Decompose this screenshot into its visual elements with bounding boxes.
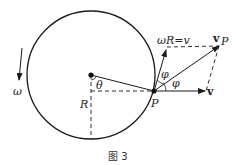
phi-upper-label: φ <box>161 68 169 81</box>
vp-label: v <box>212 32 220 45</box>
rolling-wheel-diagram: ω θ R P ωR=v v P v φ φ 图 3 <box>0 0 232 165</box>
omega-label: ω <box>13 85 22 98</box>
figure-caption: 图 3 <box>108 151 128 162</box>
phi-lower-label: φ <box>172 77 180 90</box>
point-p-label: P <box>150 97 159 110</box>
v-label: v <box>206 85 214 98</box>
omega-rotation-arrow <box>19 48 22 80</box>
vp-subscript: P <box>220 35 229 48</box>
phi-arc-lower <box>164 84 166 91</box>
radius-label: R <box>79 98 88 111</box>
tangential-velocity-label: ωR=v <box>157 34 190 47</box>
center-dot <box>88 72 93 77</box>
theta-label: θ <box>96 79 103 92</box>
